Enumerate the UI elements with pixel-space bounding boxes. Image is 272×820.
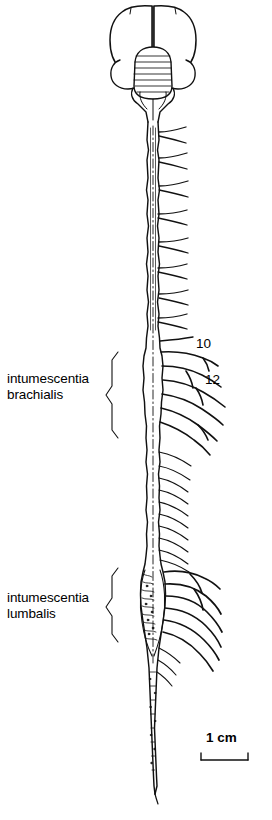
thoracic-nerve-roots <box>159 452 191 572</box>
cerebellum-icon <box>134 47 172 99</box>
sacral-nerve-roots <box>157 648 180 686</box>
brace-brachialis <box>106 352 118 438</box>
label-intumescentia-lumbalis: intumescentia lumbalis <box>7 590 89 622</box>
anatomy-illustration <box>0 0 272 820</box>
brachial-plexus-roots <box>160 337 225 455</box>
label-intumescentia-brachialis: intumescentia brachialis <box>7 371 89 403</box>
figure-container: intumescentia brachialis intumescentia l… <box>0 0 272 820</box>
callout-number-10: 10 <box>196 336 211 351</box>
label-lumbalis-line1: intumescentia <box>7 590 89 606</box>
brace-lumbalis <box>106 568 118 642</box>
scale-bar-label: 1 cm <box>206 730 237 745</box>
label-brachialis-line1: intumescentia <box>7 371 89 387</box>
lumbar-enlargement-texture <box>142 574 157 640</box>
filum-terminale-tip <box>155 794 158 804</box>
label-brachialis-line2: brachialis <box>7 387 89 403</box>
scale-bar <box>201 753 248 760</box>
cervical-nerve-roots <box>158 127 188 329</box>
callout-number-12: 12 <box>205 372 220 387</box>
label-lumbalis-line2: lumbalis <box>7 606 89 622</box>
